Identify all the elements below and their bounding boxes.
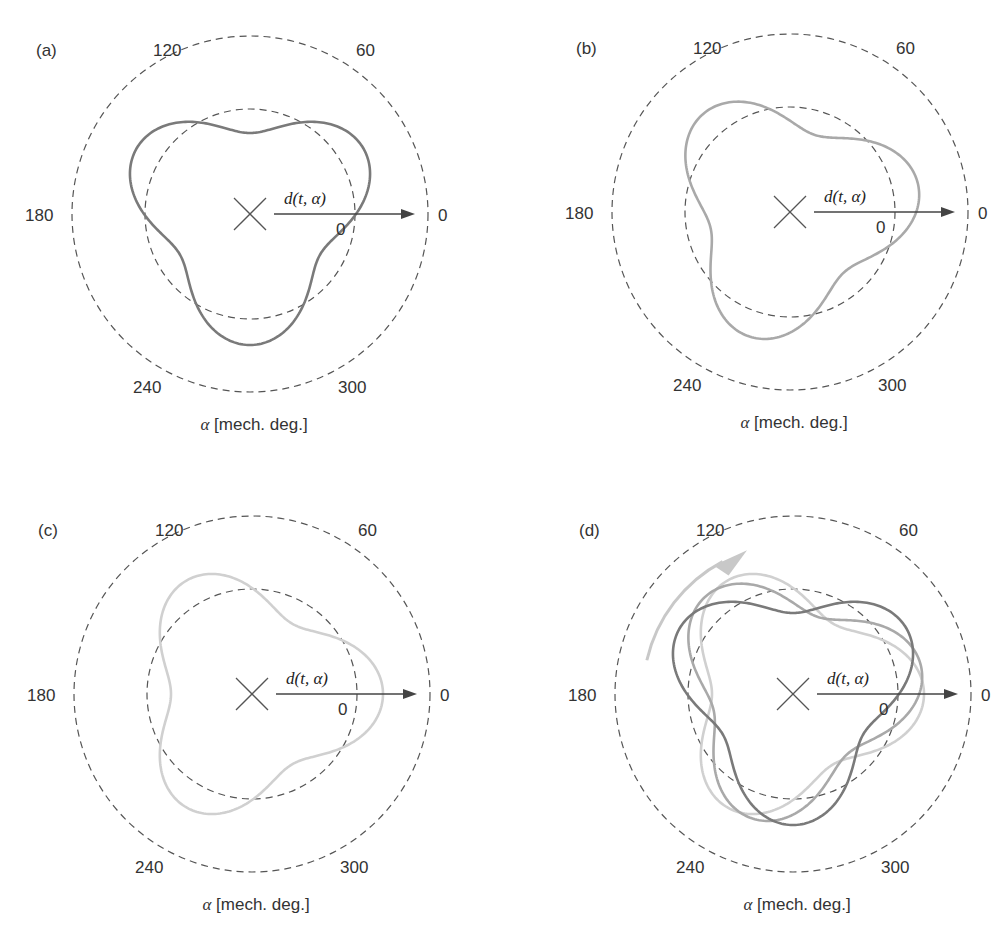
x-axis-label: α [mech. deg.] — [202, 895, 309, 914]
tick-120-label: 120 — [693, 39, 721, 58]
zero-label: 0 — [879, 700, 888, 719]
zero-label: 0 — [876, 218, 885, 237]
tick-300-label: 300 — [340, 858, 368, 877]
unit-text: [mech. deg.] — [749, 413, 847, 432]
x-axis-label: α [mech. deg.] — [743, 895, 850, 914]
tick-120-label: 120 — [153, 41, 181, 60]
tick-120-label: 120 — [696, 521, 724, 540]
tick-240-label: 240 — [135, 858, 163, 877]
tick-240-label: 240 — [673, 376, 701, 395]
tick-0-label: 0 — [978, 204, 987, 223]
tick-60-label: 60 — [896, 39, 915, 58]
unit-text: [mech. deg.] — [211, 895, 309, 914]
arrowhead-icon — [403, 689, 417, 699]
panel-label: (d) — [579, 521, 600, 540]
x-axis-label: α [mech. deg.] — [740, 413, 847, 432]
figure: d(t, α)0(a)120601800240300α [mech. deg.]… — [0, 0, 999, 927]
tick-60-label: 60 — [899, 521, 918, 540]
tick-180-label: 180 — [25, 206, 53, 225]
tick-300-label: 300 — [878, 376, 906, 395]
arrowhead-icon — [944, 689, 958, 699]
tick-180-label: 180 — [565, 204, 593, 223]
panel-label: (b) — [576, 39, 597, 58]
tick-60-label: 60 — [356, 41, 375, 60]
tick-0-label: 0 — [438, 206, 447, 225]
panel-c: d(t, α)0(c)120601800240300α [mech. deg.] — [27, 516, 449, 914]
tick-0-label: 0 — [440, 686, 449, 705]
deformation-curve — [130, 122, 370, 345]
vector-label: d(t, α) — [824, 187, 866, 206]
tick-180-label: 180 — [27, 686, 55, 705]
panel-a: d(t, α)0(a)120601800240300α [mech. deg.] — [25, 36, 447, 434]
unit-text: [mech. deg.] — [752, 895, 850, 914]
tick-300-label: 300 — [338, 378, 366, 397]
tick-0-label: 0 — [981, 686, 990, 705]
x-axis-label: α [mech. deg.] — [200, 415, 307, 434]
tick-240-label: 240 — [676, 858, 704, 877]
vector-label: d(t, α) — [284, 189, 326, 208]
rotation-arrow — [647, 562, 723, 661]
unit-text: [mech. deg.] — [209, 415, 307, 434]
arrowhead-icon — [401, 209, 415, 219]
arrowhead-icon — [941, 207, 955, 217]
tick-120-label: 120 — [155, 521, 183, 540]
vector-label: d(t, α) — [286, 669, 328, 688]
tick-300-label: 300 — [881, 858, 909, 877]
vector-label: d(t, α) — [827, 669, 869, 688]
tick-180-label: 180 — [568, 686, 596, 705]
zero-label: 0 — [336, 220, 345, 239]
panel-label: (a) — [36, 41, 57, 60]
panel-b: d(t, α)0(b)120601800240300α [mech. deg.] — [565, 34, 987, 432]
panel-label: (c) — [38, 521, 58, 540]
tick-240-label: 240 — [133, 378, 161, 397]
tick-60-label: 60 — [358, 521, 377, 540]
zero-label: 0 — [338, 700, 347, 719]
panel-d: d(t, α)0(d)120601800240300α [mech. deg.] — [568, 516, 990, 914]
